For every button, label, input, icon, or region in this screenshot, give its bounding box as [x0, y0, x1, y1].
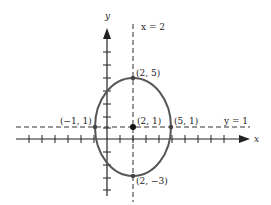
x-axis-label: x [254, 135, 259, 144]
point-center-2-1 [130, 124, 136, 130]
point-label-2-5: (2, 5) [136, 69, 160, 78]
point-2-neg3 [131, 174, 135, 178]
point-label-2-1: (2, 1) [137, 117, 161, 126]
point-2-5 [131, 76, 135, 80]
point-label-2-neg3: (2, −3) [136, 177, 168, 186]
diagram-canvas [0, 0, 271, 205]
point-label-5-1: (5, 1) [174, 117, 198, 126]
ellipse-diagram: y x x = 2 y = 1 (2, 5) (2, 1) (5, 1) (−1… [0, 0, 271, 205]
point-label-neg1-1: (−1, 1) [60, 117, 92, 126]
x-equals-2-label: x = 2 [141, 23, 165, 32]
y-equals-1-label: y = 1 [224, 117, 248, 126]
y-axis [103, 28, 111, 196]
point-5-1 [169, 125, 173, 129]
y-axis-label: y [105, 12, 110, 21]
point-neg1-1 [93, 125, 97, 129]
